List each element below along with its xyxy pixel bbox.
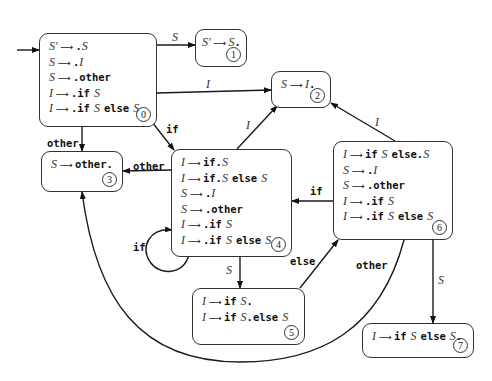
- terminal: else: [253, 311, 278, 323]
- item-lhs: S': [49, 39, 58, 53]
- state-4: I⟶if.SI⟶if.SelseSS⟶.IS⟶.otherI⟶.ifSI⟶.if…: [171, 149, 292, 257]
- production-arrow-icon: ⟶: [188, 158, 200, 168]
- terminal: if: [224, 295, 237, 307]
- state-1: S'⟶S.1: [195, 29, 247, 67]
- item-lhs: I: [49, 86, 53, 100]
- state-0: S'⟶.SS⟶.IS⟶.otherI⟶.ifSI⟶.ifSelseS0: [39, 33, 157, 127]
- production-arrow-icon: ⟶: [188, 220, 200, 230]
- lr-item: I⟶ifS.: [202, 294, 298, 310]
- nonterminal: S: [427, 209, 433, 223]
- production-arrow-icon: ⟶: [58, 73, 70, 83]
- item-lhs: I: [202, 310, 206, 324]
- production-arrow-icon: ⟶: [209, 297, 221, 307]
- terminal: other: [211, 203, 243, 215]
- nonterminal: I: [373, 163, 377, 177]
- edge-label-6-2: I: [375, 115, 379, 130]
- nonterminal: S: [261, 171, 267, 185]
- production-arrow-icon: ⟶: [61, 42, 73, 52]
- item-lhs: I: [181, 155, 185, 169]
- state-number-badge: 2: [310, 88, 325, 103]
- production-arrow-icon: ⟶: [352, 181, 364, 191]
- production-arrow-icon: ⟶: [350, 212, 362, 222]
- item-dot: .: [247, 295, 253, 307]
- item-lhs: I: [343, 209, 347, 223]
- nonterminal: S: [226, 233, 232, 247]
- item-lhs: I: [372, 329, 376, 343]
- terminal: if: [209, 234, 222, 246]
- lr-item: I⟶.ifSelseS: [49, 101, 150, 117]
- terminal: if: [203, 172, 216, 184]
- production-arrow-icon: ⟶: [379, 332, 391, 342]
- production-arrow-icon: ⟶: [352, 166, 364, 176]
- production-arrow-icon: ⟶: [350, 150, 362, 160]
- item-lhs: I: [343, 147, 347, 161]
- edge-label-0-4: if: [166, 123, 179, 135]
- item-lhs: S: [49, 55, 55, 69]
- lr-item: S⟶.I: [49, 55, 150, 71]
- edge-label-4-5: S: [226, 263, 232, 278]
- edge-label-5-6: else: [290, 255, 315, 267]
- production-arrow-icon: ⟶: [56, 89, 68, 99]
- item-lhs: I: [49, 101, 53, 115]
- state-number-badge: 3: [102, 172, 117, 187]
- lr-item: S⟶other.: [51, 157, 116, 173]
- state-number-badge: 1: [226, 47, 241, 62]
- lr-item: I⟶if.SelseS: [181, 171, 285, 187]
- terminal: other: [373, 179, 405, 191]
- lr-item: I⟶ifSelse.S: [343, 147, 446, 163]
- state-number-badge: 0: [136, 107, 151, 122]
- lr-item: S⟶.I: [181, 186, 285, 202]
- item-lhs: I: [202, 294, 206, 308]
- item-lhs: S: [51, 157, 57, 171]
- state-number-badge: 4: [271, 237, 286, 252]
- production-arrow-icon: ⟶: [190, 189, 202, 199]
- terminal: else: [392, 148, 417, 160]
- lr-item: S⟶.I: [343, 163, 446, 179]
- production-arrow-icon: ⟶: [190, 205, 202, 215]
- nonterminal: S: [226, 217, 232, 231]
- production-arrow-icon: ⟶: [209, 313, 221, 323]
- lr-item: I⟶.ifSelseS: [343, 209, 446, 225]
- nonterminal: S: [222, 171, 228, 185]
- edge-0-2: [157, 90, 271, 93]
- item-dot: .: [234, 36, 240, 48]
- production-arrow-icon: ⟶: [56, 104, 68, 114]
- nonterminal: S: [282, 310, 288, 324]
- state-3: S⟶other.3: [41, 151, 123, 192]
- item-lhs: S: [343, 163, 349, 177]
- edge-6-2: [331, 103, 395, 141]
- nonterminal: S: [82, 39, 88, 53]
- production-arrow-icon: ⟶: [60, 160, 72, 170]
- edge-label-0-2: I: [206, 77, 210, 92]
- item-dot: .: [107, 158, 113, 170]
- item-lhs: I: [181, 233, 185, 247]
- item-lhs: S: [181, 202, 187, 216]
- nonterminal: I: [79, 55, 83, 69]
- terminal: if: [371, 195, 384, 207]
- item-lhs: I: [343, 194, 347, 208]
- lr-item: S⟶.other: [181, 202, 285, 218]
- edge-label-4-3: other: [133, 160, 165, 172]
- item-lhs: S: [281, 77, 287, 91]
- nonterminal: S: [388, 209, 394, 223]
- edge-label-0-3: other: [47, 137, 79, 149]
- terminal: else: [104, 102, 129, 114]
- lr-item: I⟶.ifS: [343, 194, 446, 210]
- state-2: S⟶I.2: [271, 71, 331, 108]
- terminal: if: [394, 330, 407, 342]
- edge-label-0-1: S: [172, 30, 178, 45]
- terminal: if: [209, 218, 222, 230]
- nonterminal: S: [94, 86, 100, 100]
- lr-item: S⟶.other: [343, 178, 446, 194]
- production-arrow-icon: ⟶: [350, 197, 362, 207]
- lr-item: I⟶ifS.elseS: [202, 310, 298, 326]
- edge-label-4-4: if: [133, 241, 146, 253]
- terminal: else: [421, 330, 446, 342]
- state-number-badge: 7: [453, 338, 468, 353]
- nonterminal: S: [423, 147, 429, 161]
- terminal: else: [236, 234, 261, 246]
- terminal: if: [77, 102, 90, 114]
- state-5: I⟶ifS.I⟶ifS.elseS5: [192, 288, 305, 345]
- item-lhs: S: [181, 186, 187, 200]
- nonterminal: S: [388, 194, 394, 208]
